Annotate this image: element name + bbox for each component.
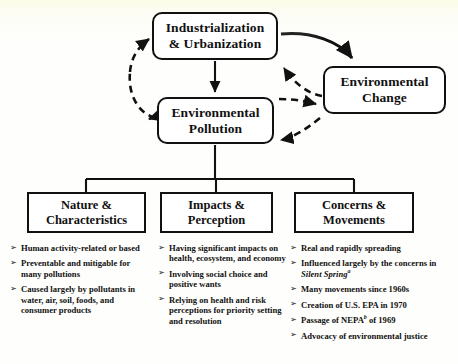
- list-item: Relying on health and risk perceptions f…: [158, 295, 286, 326]
- list-item: Advocacy of environmental justice: [290, 331, 458, 341]
- diagram-canvas: Industrialization & Urbanization Environ…: [0, 0, 458, 364]
- bullet-list-impacts-items: Having significant impacts on health, ec…: [158, 243, 286, 326]
- bullet-text-nepa-suffix: of 1969: [367, 315, 396, 325]
- footnote-marker-a: a: [348, 268, 351, 274]
- list-item: Real and rapidly spreading: [290, 243, 458, 253]
- edge-pollution-to-change-upper: [279, 99, 316, 104]
- list-item: Having significant impacts on health, ec…: [158, 243, 286, 264]
- list-item: Preventable and mitigable for many pollu…: [10, 258, 150, 279]
- list-item: Human activity-related or based: [10, 243, 150, 253]
- list-item: Influenced largely by the concerns in Si…: [290, 258, 458, 279]
- bullet-list-nature-items: Human activity-related or based Preventa…: [10, 243, 150, 316]
- category-impacts-label: Impacts & Perception: [188, 198, 245, 228]
- list-item: Involving social choice and positive wan…: [158, 269, 286, 290]
- edge-change-to-industrialization: [284, 68, 322, 96]
- category-nature-label: Nature & Characteristics: [46, 198, 127, 228]
- node-environmental-change-label: Environmental Change: [336, 74, 432, 106]
- node-environmental-pollution[interactable]: Environmental Pollution: [157, 97, 274, 144]
- bullet-list-nature: Human activity-related or based Preventa…: [10, 243, 150, 321]
- node-environmental-pollution-label: Environmental Pollution: [167, 105, 263, 137]
- bullet-list-impacts: Having significant impacts on health, ec…: [158, 243, 286, 331]
- category-box-concerns-movements[interactable]: Concerns & Movements: [294, 192, 414, 233]
- bullet-list-concerns-items: Real and rapidly spreading Influenced la…: [290, 243, 458, 341]
- node-industrialization-urbanization[interactable]: Industrialization & Urbanization: [152, 12, 278, 60]
- category-concerns-label: Concerns & Movements: [322, 198, 386, 228]
- edge-change-to-pollution-lower: [281, 118, 320, 140]
- bullet-text-nepa-prefix: Passage of NEPA: [301, 315, 364, 325]
- edge-pollution-category-tree: [86, 145, 354, 192]
- category-box-nature-characteristics[interactable]: Nature & Characteristics: [27, 192, 146, 233]
- edge-industrialization-to-change: [281, 34, 352, 58]
- bullet-text-prefix: Influenced largely by the concerns in: [301, 258, 436, 268]
- bullet-list-concerns: Real and rapidly spreading Influenced la…: [290, 243, 458, 346]
- category-box-impacts-perception[interactable]: Impacts & Perception: [160, 192, 273, 233]
- silent-spring-title: Silent Spring: [301, 269, 348, 279]
- list-item: Creation of U.S. EPA in 1970: [290, 300, 458, 310]
- node-environmental-change[interactable]: Environmental Change: [323, 66, 446, 114]
- list-item: Passage of NEPAb of 1969: [290, 315, 458, 325]
- node-industrialization-label: Industrialization & Urbanization: [162, 20, 268, 52]
- list-item: Caused largely by pollutants in water, a…: [10, 284, 150, 315]
- list-item: Many movements since 1960s: [290, 284, 458, 294]
